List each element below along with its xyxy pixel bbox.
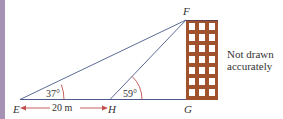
label-E: E bbox=[12, 103, 20, 115]
note-line-2: accurately bbox=[227, 60, 274, 72]
building bbox=[186, 20, 218, 100]
line-EF bbox=[20, 20, 186, 100]
not-drawn-accurately-note: Not drawn accurately bbox=[227, 48, 274, 72]
angle-arc-E bbox=[61, 85, 64, 100]
angle-label-H: 59° bbox=[123, 88, 137, 99]
label-H: H bbox=[107, 103, 117, 115]
line-HF bbox=[110, 20, 186, 100]
distance-label-EH: 20 m bbox=[52, 102, 73, 113]
label-G: G bbox=[184, 103, 192, 115]
angle-label-E: 37° bbox=[46, 88, 60, 99]
note-line-1: Not drawn bbox=[227, 48, 274, 60]
label-F: F bbox=[182, 5, 190, 17]
